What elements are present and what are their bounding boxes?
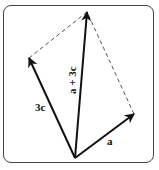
vector-a-arrow — [75, 114, 134, 158]
dashed-edge-a-to-sum — [87, 12, 134, 114]
vector-diagram: 3c a + 3c a — [0, 0, 159, 170]
label-a-plus-3c: a + 3c — [66, 66, 78, 94]
dashed-edge-3c-to-sum — [29, 12, 87, 58]
label-a: a — [107, 135, 113, 147]
label-3c: 3c — [35, 101, 46, 113]
